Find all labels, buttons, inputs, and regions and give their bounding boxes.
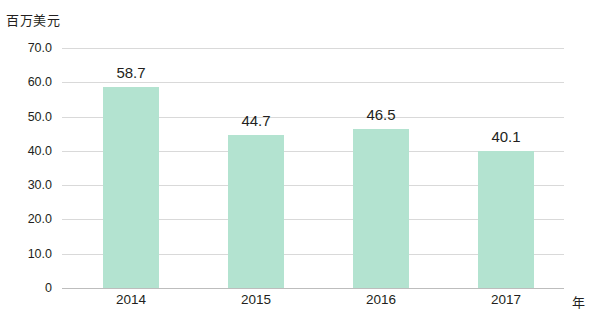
y-tick-label-20: 20.0 [4,212,52,226]
gridline-baseline [62,288,564,289]
y-tick-label-0: 0 [4,281,52,295]
y-tick-label-10: 10.0 [4,247,52,261]
x-tick-label-2015: 2015 [201,292,311,307]
y-tick-label-50: 50.0 [4,110,52,124]
y-tick-label-30: 30.0 [4,178,52,192]
bar-value-2014: 58.7 [76,64,186,81]
bar-value-2016: 46.5 [326,106,436,123]
bar-chart: 百万美元 70.0 60.0 50.0 40.0 30.0 20.0 10.0 … [0,0,604,315]
bar-2016 [353,129,409,288]
bar-2017 [478,151,534,288]
x-tick-label-2016: 2016 [326,292,436,307]
gridline-70 [62,48,564,49]
y-tick-label-40: 40.0 [4,144,52,158]
x-tick-label-2017: 2017 [451,292,561,307]
bar-2015 [228,135,284,288]
x-axis-title: 年 [572,292,585,311]
bar-value-2015: 44.7 [201,112,311,129]
chart-unit-label: 百万美元 [6,10,60,29]
gridline-60 [62,82,564,83]
x-tick-label-2014: 2014 [76,292,186,307]
plot-area [62,48,564,288]
bar-value-2017: 40.1 [451,128,561,145]
bar-2014 [103,87,159,288]
y-tick-label-70: 70.0 [4,41,52,55]
y-tick-label-60: 60.0 [4,75,52,89]
